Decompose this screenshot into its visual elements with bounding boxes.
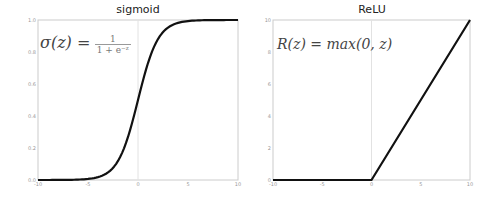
y-tick-label: 8 <box>259 49 271 55</box>
y-tick-label: 0.6 <box>24 81 36 87</box>
x-tick-label: -5 <box>316 181 328 187</box>
x-tick-label: 0 <box>132 181 144 187</box>
y-tick-label: 0.0 <box>24 177 36 183</box>
y-tick-label: 2 <box>259 145 271 151</box>
x-tick-label: 5 <box>182 181 194 187</box>
y-tick-label: 0 <box>259 177 271 183</box>
x-tick-label: -5 <box>82 181 94 187</box>
x-tick-label: 5 <box>415 181 427 187</box>
y-tick-label: 0.8 <box>24 49 36 55</box>
x-tick-label: 0 <box>366 181 378 187</box>
x-tick-label: 10 <box>464 181 476 187</box>
y-tick-label: 1.0 <box>24 17 36 23</box>
y-tick-label: 6 <box>259 81 271 87</box>
y-tick-label: 10 <box>259 17 271 23</box>
relu-formula: R(z) = max(0, z) <box>277 36 392 52</box>
y-tick-label: 4 <box>259 113 271 119</box>
x-tick-label: 10 <box>232 181 244 187</box>
sigmoid-formula: σ(z) = 11 + e⁻ᶻ <box>40 33 131 55</box>
plots-canvas <box>0 0 499 201</box>
y-tick-label: 0.4 <box>24 113 36 119</box>
y-tick-label: 0.2 <box>24 145 36 151</box>
